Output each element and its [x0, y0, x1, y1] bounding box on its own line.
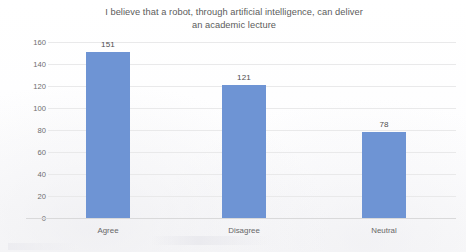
bar-value-label-neutral: 78: [354, 120, 414, 129]
y-axis-tick-80: 80: [2, 126, 46, 135]
y-axis-tick-40: 40: [2, 170, 46, 179]
y-axis-tick-100: 100: [2, 104, 46, 113]
bar-value-label-agree: 151: [78, 40, 138, 49]
x-axis-label-disagree: Disagree: [199, 226, 289, 235]
plot-area: [48, 42, 456, 218]
bar-disagree[interactable]: [222, 85, 266, 218]
bar-chart: I believe that a robot, through artifici…: [0, 0, 466, 252]
x-axis-label-neutral: Neutral: [339, 226, 429, 235]
chart-title: I believe that a robot, through artifici…: [60, 6, 408, 32]
y-axis-tick-140: 140: [2, 60, 46, 69]
bar-agree[interactable]: [86, 52, 130, 218]
chart-title-line-1: I believe that a robot, through artifici…: [60, 6, 408, 19]
chart-title-line-2: an academic lecture: [60, 19, 408, 32]
y-axis-tick-160: 160: [2, 38, 46, 47]
x-axis-line: [26, 218, 456, 219]
y-axis: 160 140 120 100 80 60 40 20 0: [0, 0, 46, 252]
bar-neutral[interactable]: [362, 132, 406, 218]
y-axis-tick-60: 60: [2, 148, 46, 157]
x-axis-label-agree: Agree: [63, 226, 153, 235]
y-axis-tick-120: 120: [2, 82, 46, 91]
y-axis-tick-20: 20: [2, 192, 46, 201]
bar-value-label-disagree: 121: [214, 73, 274, 82]
scan-artifact-center: [150, 236, 270, 245]
